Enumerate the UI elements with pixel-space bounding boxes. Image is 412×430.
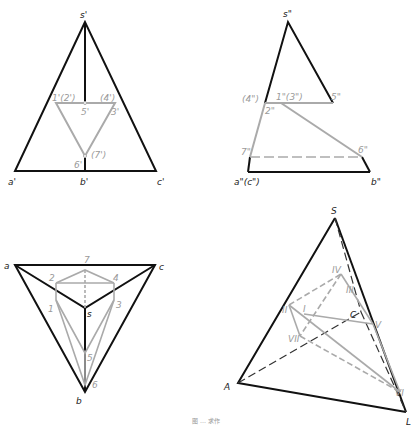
figure-caption: 图 … 求作 [0, 416, 412, 425]
label-5-top: 5 [87, 353, 93, 363]
label-7-front: (7') [91, 150, 106, 160]
label-2-top: 2 [49, 273, 55, 283]
label-4-top: 4 [113, 273, 119, 283]
label-b-front: b' [80, 177, 88, 187]
iso-view [238, 218, 406, 412]
label-s-top: s [87, 309, 92, 319]
label-5-front: 5' [81, 107, 89, 117]
top-view [15, 265, 155, 392]
label-c-top: c [159, 262, 164, 272]
label-VI-iso: VI [395, 388, 404, 398]
label-s-front: s' [80, 10, 87, 20]
label-4-side: (4") [242, 94, 259, 104]
label-7-side: 7" [241, 147, 251, 157]
label-I-iso: I [303, 304, 306, 314]
label-6-front: 6' [74, 160, 82, 170]
label-V-iso: V [375, 320, 382, 330]
label-b-top: b [76, 396, 82, 406]
label-ac-side: a"(c") [234, 177, 260, 187]
label-5-side: 5" [331, 92, 341, 102]
label-13-side: 1"(3") [276, 92, 303, 102]
drawing-canvas: s' a' b' c' 1'(2') (4') 3' 5' 6' (7') s"… [0, 0, 412, 430]
label-IV-iso: IV [332, 265, 342, 275]
label-3-front: 3' [111, 107, 119, 117]
label-III-iso: III [346, 285, 354, 295]
label-VII-iso: VII [288, 334, 300, 344]
side-view [248, 22, 370, 172]
label-1-top: 1 [48, 304, 54, 314]
label-b-side: b" [371, 177, 381, 187]
label-6-top: 6 [92, 380, 98, 390]
label-A-iso: A [223, 382, 230, 392]
label-a-front: a' [8, 177, 16, 187]
label-12-front: 1'(2') [52, 93, 75, 103]
label-S-iso: S [331, 206, 337, 216]
label-II-iso: II [282, 305, 288, 315]
label-C-iso: C [350, 310, 357, 320]
label-7-top: 7 [84, 255, 90, 265]
label-a-top: a [4, 261, 10, 271]
label-4-front: (4') [100, 93, 115, 103]
label-2-side: 2" [265, 106, 275, 116]
label-s-side: s" [283, 9, 292, 19]
label-6-side: 6" [358, 145, 368, 155]
label-c-front: c' [157, 177, 164, 187]
front-view [15, 22, 156, 171]
label-3-top: 3 [116, 300, 122, 310]
